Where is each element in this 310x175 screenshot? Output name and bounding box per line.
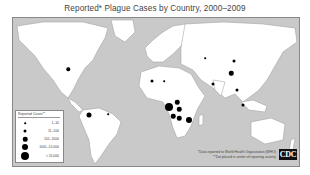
dot-vietnam (236, 89, 239, 92)
cdc-logo: CDC (279, 149, 297, 160)
dot-dr-congo (165, 103, 173, 111)
footnotes: *Data reported to World Health Organizat… (168, 150, 276, 160)
dot-united-states (66, 67, 70, 71)
legend-label: 11–100 (48, 129, 59, 133)
legend-item: 101–1000 (16, 135, 63, 143)
dot-madagascar (186, 117, 192, 123)
legend-label: 1001–10,000 (39, 145, 59, 149)
dot-india (212, 83, 215, 86)
dot-algeria (151, 80, 154, 83)
legend-item: > 10,000 (16, 152, 63, 160)
legend-dot-icon (24, 130, 27, 133)
dot-kazakhstan (204, 57, 206, 59)
dot-peru (87, 113, 92, 118)
dot-china (229, 71, 234, 76)
dot-malawi (177, 116, 182, 121)
legend-item: 11–100 (16, 127, 63, 135)
legend: Reported Cases** 1–10 11–100 101–1000 10… (15, 110, 64, 163)
dot-mongolia (233, 60, 236, 63)
legend-dot-icon (21, 152, 29, 160)
legend-item: 1001–10,000 (16, 143, 63, 151)
legend-label: 101–1000 (44, 137, 59, 141)
map-title: Reported* Plague Cases by Country, 2000–… (0, 4, 310, 13)
dot-tanzania (177, 107, 182, 112)
legend-item: 1–10 (16, 119, 63, 127)
legend-title: Reported Cases** (18, 112, 60, 118)
dot-brazil (107, 113, 109, 115)
legend-label: 1–10 (51, 121, 59, 125)
dot-zambia (171, 114, 176, 119)
dot-libya (163, 80, 165, 82)
dot-indonesia (242, 104, 245, 107)
legend-label: > 10,000 (46, 154, 59, 158)
legend-dot-icon (22, 144, 28, 150)
dot-uganda (175, 100, 180, 105)
legend-dot-icon (23, 137, 28, 142)
footnote-dot-placement: **Dot placed in center of reporting coun… (168, 155, 276, 160)
legend-dot-icon (24, 122, 26, 124)
